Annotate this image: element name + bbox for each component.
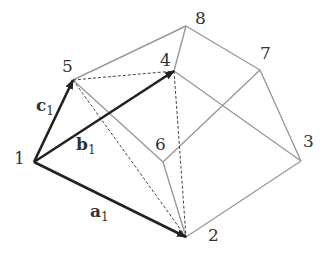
dashed-edge-4-2	[174, 71, 186, 237]
vertex-label-7: 7	[260, 45, 271, 62]
vector-label-b1: b1	[76, 136, 96, 156]
vector-label-c1: c1	[36, 97, 54, 117]
edge-7-3	[260, 70, 301, 161]
edge-8-7	[186, 26, 260, 70]
edge-6-2	[163, 162, 186, 237]
edge-4-3	[174, 71, 301, 161]
vertex-label-1: 1	[14, 150, 25, 167]
edge-8-4	[174, 26, 186, 71]
vertex-label-8: 8	[195, 10, 206, 27]
vertex-label-5: 5	[62, 58, 73, 75]
vector-a1-arrow	[34, 162, 186, 237]
edge-3-2	[186, 161, 301, 237]
polyhedron-diagram	[0, 0, 326, 259]
vertex-label-2: 2	[208, 227, 219, 244]
basis-vectors	[34, 71, 186, 237]
vector-label-a1: a1	[90, 203, 109, 223]
vertex-label-3: 3	[303, 133, 314, 150]
vertex-label-4: 4	[160, 52, 171, 69]
vertex-label-6: 6	[155, 136, 166, 153]
